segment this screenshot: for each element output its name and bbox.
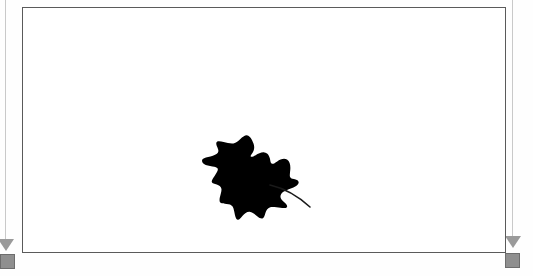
right-resize-handle[interactable]: [505, 253, 520, 268]
left-margin-guide[interactable]: [5, 0, 6, 243]
right-margin-guide[interactable]: [512, 0, 513, 238]
canvas-workspace: Black leaf silhouette: [0, 0, 533, 276]
left-resize-handle[interactable]: [0, 254, 15, 269]
left-guide-arrow-icon[interactable]: [0, 239, 14, 251]
page-canvas-frame[interactable]: [22, 7, 506, 253]
right-guide-arrow-icon[interactable]: [505, 236, 521, 248]
